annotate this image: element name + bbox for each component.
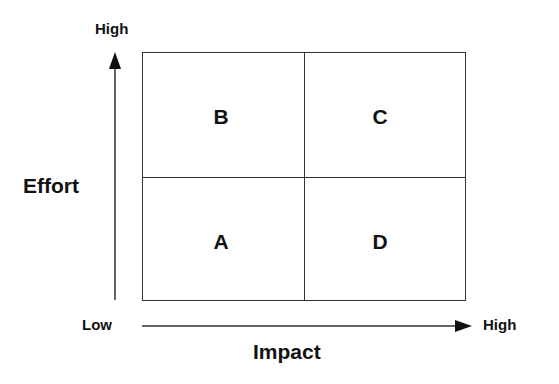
matrix-grid: B C A D bbox=[142, 52, 466, 301]
quadrant-bottom-left: A bbox=[213, 230, 228, 254]
horizontal-divider bbox=[143, 177, 465, 178]
x-axis-high-label: High bbox=[483, 316, 516, 333]
origin-low-label: Low bbox=[82, 316, 112, 333]
quadrant-top-left: B bbox=[213, 105, 228, 129]
y-axis-title: Effort bbox=[23, 174, 79, 198]
x-axis-arrow-icon bbox=[455, 320, 472, 332]
y-axis-arrow-icon bbox=[109, 52, 121, 69]
quadrant-bottom-right: D bbox=[372, 230, 387, 254]
y-axis-high-label: High bbox=[95, 20, 128, 37]
quadrant-top-right: C bbox=[372, 105, 387, 129]
x-axis-title: Impact bbox=[253, 340, 321, 364]
